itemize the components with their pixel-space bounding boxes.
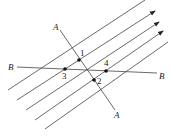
point-4: [104, 69, 108, 73]
point-1-label: 1: [80, 48, 85, 58]
field-lines-diagram: A A B B 1 2 3 4: [0, 0, 171, 138]
label-b-left: B: [8, 62, 14, 72]
parallel-field-lines: [8, 0, 168, 129]
label-a-top: A: [52, 22, 59, 32]
point-2: [92, 78, 96, 82]
point-4-label: 4: [104, 58, 109, 68]
point-3-label: 3: [62, 71, 67, 81]
point-1: [77, 58, 81, 62]
field-line-3: [26, 22, 159, 110]
field-line-2: [17, 11, 155, 100]
point-2-label: 2: [97, 76, 102, 86]
label-a-bottom: A: [113, 110, 120, 120]
label-b-right: B: [159, 71, 165, 81]
